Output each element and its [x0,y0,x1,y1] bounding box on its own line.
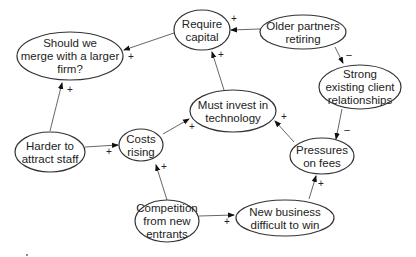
arrow-icon [50,83,62,131]
arrow-icon [231,29,260,30]
node-label: Costs [126,133,156,145]
node-label: Strong [343,68,377,80]
node-label: entrants [146,228,188,240]
node-merge: Should wemerge with a largerfirm? [17,32,123,80]
polarity-sign: + [128,51,134,62]
node-label: Harder to [26,140,74,152]
stray-mark [26,254,28,256]
node-label: attract staff [22,153,79,165]
nodes-layer: RequirecapitalOlder partnersretiringShou… [15,10,401,242]
node-strong-relationships: Strongexisting clientrelationships [319,65,401,109]
polarity-sign: – [346,49,352,60]
node-label: Must invest in [198,99,268,111]
edge-harder_staff-to-merge: + [50,83,73,131]
node-label: existing client [325,81,395,93]
node-label: firm? [57,63,83,75]
edge-pressures_fees-to-invest_technology: + [275,111,294,142]
node-new-business: New businessdifficult to win [236,200,334,236]
arrow-icon [335,47,343,63]
node-invest-technology: Must invest intechnology [190,90,276,132]
node-label: Pressures [296,144,348,156]
arrow-icon [275,121,294,142]
edge-competition-to-new_business: + [199,215,234,227]
node-label: merge with a larger [21,50,120,62]
node-label: New business [249,206,321,218]
node-label: relationships [328,94,393,106]
polarity-sign: + [67,84,73,95]
edge-invest_technology-to-require_capital: + [212,49,224,90]
edge-competition-to-costs_rising: + [156,161,167,200]
polarity-sign: – [344,124,350,135]
node-label: capital [185,31,218,43]
node-label: Older partners [266,20,340,32]
polarity-sign: + [318,178,324,189]
node-label: on fees [303,157,341,169]
node-label: Should we [43,37,97,49]
polarity-sign: + [218,49,224,60]
edge-require_capital-to-merge: + [124,33,174,62]
edge-new_business-to-pressures_fees: + [309,176,324,199]
arrow-icon [336,109,342,139]
edge-older_partners-to-require_capital: + [231,13,260,30]
node-pressures-fees: Pressureson fees [290,138,354,174]
node-label: retiring [285,33,320,45]
polarity-sign: + [281,111,287,122]
node-competition: Competitionfrom newentrants [135,200,199,242]
node-label: rising [127,146,154,158]
polarity-sign: + [189,121,195,132]
node-older-partners: Older partnersretiring [260,15,346,49]
node-label: Require [182,18,222,30]
edge-older_partners-to-strong_relationships: – [335,47,352,63]
arrow-icon [163,119,189,134]
edge-costs_rising-to-invest_technology: + [163,119,195,134]
polarity-sign: + [106,146,112,157]
polarity-sign: + [224,216,230,227]
node-label: from new [143,215,191,227]
node-costs-rising: Costsrising [119,129,163,161]
node-label: technology [205,112,261,124]
node-harder-staff: Harder toattract staff [15,132,85,172]
polarity-sign: + [161,161,167,172]
causal-loop-diagram: ++–++++++++– RequirecapitalOlder partner… [0,0,416,257]
arrow-icon [309,176,316,199]
node-label: difficult to win [251,219,320,231]
arrow-icon [85,145,118,147]
node-require-capital: Requirecapital [174,10,230,50]
edge-harder_staff-to-costs_rising: + [85,145,118,157]
arrow-icon [124,33,174,50]
node-label: Competition [136,202,197,214]
edge-strong_relationships-to-pressures_fees: – [336,109,350,139]
polarity-sign: + [231,13,237,24]
